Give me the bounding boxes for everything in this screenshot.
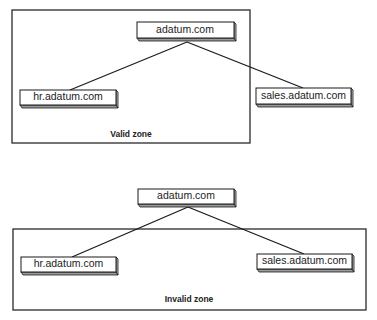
node-sales-adatum: sales.adatum.com <box>256 88 353 107</box>
dns-zone-diagram: adatum.com hr.adatum.com sales.adatum.co… <box>0 0 377 320</box>
node-hr-adatum: hr.adatum.com <box>21 257 118 275</box>
node-label: adatum.com <box>156 23 214 35</box>
node-label: sales.adatum.com <box>262 254 347 266</box>
zone-label: Invalid zone <box>165 294 214 304</box>
node-label: adatum.com <box>157 189 215 201</box>
node-hr-adatum: hr.adatum.com <box>20 90 118 108</box>
node-sales-adatum: sales.adatum.com <box>257 254 354 272</box>
link-root-to-hr <box>70 42 187 90</box>
node-label: hr.adatum.com <box>34 257 104 269</box>
link-root-to-hr <box>72 207 188 257</box>
node-adatum-root: adatum.com <box>137 22 236 41</box>
node-adatum-root: adatum.com <box>138 189 236 207</box>
link-root-to-sales <box>188 207 304 254</box>
node-label: sales.adatum.com <box>261 89 346 101</box>
invalid-zone-diagram: adatum.com hr.adatum.com sales.adatum.co… <box>13 189 366 310</box>
valid-zone-diagram: adatum.com hr.adatum.com sales.adatum.co… <box>12 10 353 143</box>
node-label: hr.adatum.com <box>33 90 103 102</box>
zone-label: Valid zone <box>110 129 152 139</box>
link-root-to-sales <box>187 42 303 88</box>
